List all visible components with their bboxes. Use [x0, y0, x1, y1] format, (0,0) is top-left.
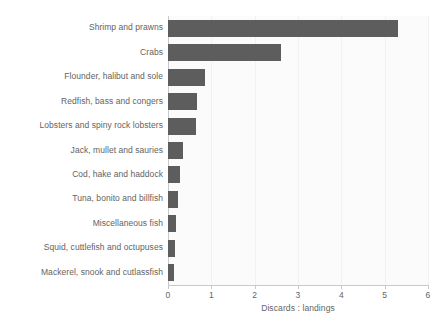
bar[interactable] — [168, 20, 398, 37]
category-label: Jack, mullet and sauries — [71, 145, 163, 155]
bar[interactable] — [168, 264, 174, 281]
x-tick-label: 3 — [296, 290, 301, 300]
bars-layer — [168, 16, 428, 285]
bar-chart: 0123456 Shrimp and prawnsCrabsFlounder, … — [0, 0, 448, 330]
x-axis-title: Discards : landings — [168, 303, 428, 313]
bar-row[interactable] — [168, 261, 428, 285]
bar-row[interactable] — [168, 236, 428, 260]
category-label: Lobsters and spiny rock lobsters — [40, 120, 164, 130]
x-tick-mark — [298, 285, 299, 289]
x-tick-label: 1 — [209, 290, 214, 300]
category-label: Redfish, bass and congers — [61, 96, 163, 106]
bar[interactable] — [168, 142, 183, 159]
bar-row[interactable] — [168, 40, 428, 64]
bar[interactable] — [168, 44, 281, 61]
bar-row[interactable] — [168, 163, 428, 187]
category-label: Tuna, bonito and billfish — [72, 193, 163, 203]
bar[interactable] — [168, 118, 196, 135]
x-tick-mark — [428, 285, 429, 289]
bar[interactable] — [168, 93, 197, 110]
category-label: Flounder, halibut and sole — [64, 71, 163, 81]
x-tick-mark — [168, 285, 169, 289]
x-tick-label: 5 — [382, 290, 387, 300]
category-label: Shrimp and prawns — [89, 22, 163, 32]
x-tick-label: 0 — [166, 290, 171, 300]
bar-row[interactable] — [168, 138, 428, 162]
x-tick-mark — [255, 285, 256, 289]
bar[interactable] — [168, 240, 175, 257]
bar[interactable] — [168, 191, 178, 208]
category-label: Squid, cuttlefish and octupuses — [44, 242, 163, 252]
category-label: Cod, hake and haddock — [72, 169, 163, 179]
bar-row[interactable] — [168, 89, 428, 113]
bar-row[interactable] — [168, 212, 428, 236]
x-tick-mark — [385, 285, 386, 289]
bar[interactable] — [168, 69, 205, 86]
bar[interactable] — [168, 166, 180, 183]
bar-row[interactable] — [168, 65, 428, 89]
category-label: Mackerel, snook and cutlassfish — [41, 267, 163, 277]
x-tick-mark — [211, 285, 212, 289]
bar-row[interactable] — [168, 187, 428, 211]
category-label: Crabs — [140, 47, 163, 57]
x-tick-label: 6 — [426, 290, 431, 300]
bar-row[interactable] — [168, 114, 428, 138]
x-tick-label: 2 — [252, 290, 257, 300]
bar[interactable] — [168, 215, 176, 232]
gridline-vertical — [428, 16, 429, 285]
x-tick-mark — [341, 285, 342, 289]
category-label: Miscellaneous fish — [93, 218, 163, 228]
bar-row[interactable] — [168, 16, 428, 40]
x-tick-label: 4 — [339, 290, 344, 300]
